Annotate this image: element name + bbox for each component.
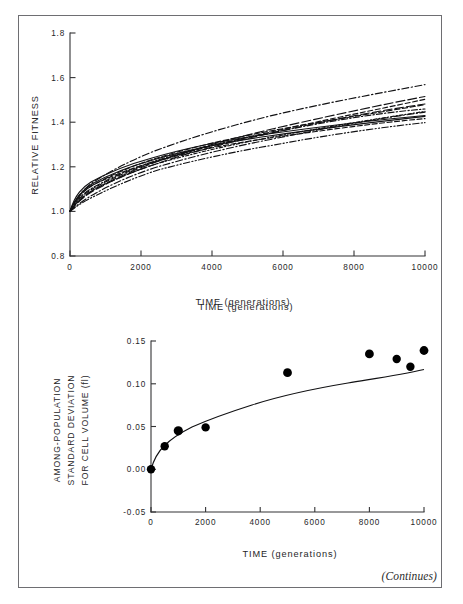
data-point	[406, 363, 414, 371]
top-chart-ytick-label-1: 1.0	[51, 207, 65, 216]
top-chart-y-ticks	[70, 33, 76, 256]
top-chart-curves	[70, 85, 425, 212]
bottom-chart-fit-curve	[151, 370, 424, 470]
bottom-chart-x-axis-title: TIME (generations)	[243, 549, 338, 559]
data-point	[161, 442, 169, 450]
data-point	[201, 423, 209, 431]
top-chart-ytick-label-2: 1.2	[51, 163, 65, 172]
top-chart-xtick-label-5: 10000	[412, 263, 439, 272]
data-point	[174, 426, 183, 435]
bottom-chart-ytick-label-0: -0.05	[123, 508, 146, 517]
top-chart-xtick-label-3: 6000	[272, 263, 293, 272]
bottom-chart-y-ticks	[151, 341, 156, 512]
curve-population-4	[70, 116, 425, 211]
top-chart-xtick-label-0: 0	[67, 263, 72, 272]
bottom-chart-xtick-label-0: 0	[148, 518, 153, 527]
cell-volume-sd-chart: TIME (generations)	[52, 302, 437, 559]
top-chart-xtick-label-4: 8000	[343, 263, 364, 272]
data-point	[147, 465, 155, 473]
top-chart-ytick-label-4: 1.6	[51, 74, 65, 83]
bottom-chart-ytick-label-2: 0.05	[127, 423, 146, 432]
bottom-chart-ytick-label-3: 0.10	[127, 380, 146, 389]
top-chart-y-axis-title: RELATIVE FITNESS	[30, 95, 40, 195]
bottom-chart-y-axis-title-line-1: AMONG-POPULATION	[52, 378, 62, 482]
bottom-chart-top-axis-title: TIME (generations)	[199, 302, 294, 312]
bottom-chart-ytick-label-1: 0.00	[127, 465, 146, 474]
curve-population-5	[70, 116, 425, 212]
bottom-chart-xtick-label-1: 2000	[195, 518, 216, 527]
top-chart-ytick-label-3: 1.4	[51, 118, 65, 127]
top-chart-x-ticks	[70, 251, 425, 257]
curve-population-2	[70, 99, 425, 211]
figure-page: 0.8 1.0 1.2 1.4 1.6 1.8 0 2000 4000 6000…	[0, 0, 463, 604]
top-chart-xtick-label-1: 2000	[130, 263, 151, 272]
bottom-chart-xtick-label-2: 4000	[249, 518, 270, 527]
bottom-chart-data-points	[147, 346, 429, 473]
top-chart-ytick-label-0: 0.8	[51, 252, 65, 261]
top-chart-xtick-label-2: 4000	[201, 263, 222, 272]
bottom-chart-y-axis-title-line-3: FOR CELL VOLUME (fl)	[80, 375, 90, 486]
bottom-chart-xtick-label-5: 10000	[411, 518, 438, 527]
data-point	[420, 346, 429, 355]
bottom-chart-x-ticks	[151, 507, 424, 512]
bottom-chart-xtick-label-3: 6000	[304, 518, 325, 527]
top-chart-ytick-label-5: 1.8	[51, 29, 65, 38]
bottom-chart-xtick-label-4: 8000	[359, 518, 380, 527]
data-point	[365, 350, 374, 359]
curve-population-8	[70, 111, 425, 211]
data-point	[393, 355, 401, 363]
bottom-chart-ytick-label-4: 0.15	[127, 337, 146, 346]
figure-canvas: 0.8 1.0 1.2 1.4 1.6 1.8 0 2000 4000 6000…	[0, 0, 463, 604]
relative-fitness-chart: 0.8 1.0 1.2 1.4 1.6 1.8 0 2000 4000 6000…	[30, 29, 438, 307]
data-point	[283, 368, 292, 377]
curve-population-1	[70, 85, 425, 212]
curve-population-6	[70, 112, 425, 211]
bottom-chart-y-axis-title-line-2: STANDARD DEVIATION	[66, 375, 76, 486]
continues-note: (Continues)	[382, 570, 437, 582]
